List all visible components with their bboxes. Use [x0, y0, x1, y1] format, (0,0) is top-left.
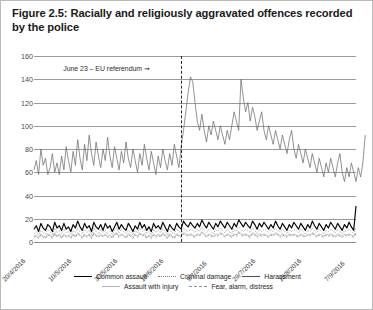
legend-label: Harassment — [264, 273, 301, 280]
legend-item-assault-with-injury[interactable]: Assault with injury — [102, 283, 178, 290]
chart-series-layer — [34, 56, 356, 242]
legend-swatch-icon — [74, 276, 92, 277]
y-tick-label-100: 100 — [0, 122, 33, 131]
y-tick-label-40: 40 — [0, 192, 33, 201]
legend-label: Common assault — [96, 273, 147, 280]
legend-row-1: Common assaultCriminal damageHarassment — [1, 273, 373, 280]
y-tick-label-80: 80 — [0, 145, 33, 154]
y-tick-label-160: 160 — [0, 52, 33, 61]
legend-swatch-icon — [189, 286, 207, 287]
legend-swatch-icon — [242, 276, 260, 277]
legend-swatch-icon — [158, 276, 176, 277]
legend-item-fear-alarm-distress[interactable]: Fear, alarm, distress — [189, 283, 273, 290]
y-tick-label-20: 20 — [0, 215, 33, 224]
legend-item-common-assault[interactable]: Common assault — [74, 273, 147, 280]
series-line-common-assault — [34, 206, 356, 232]
legend-label: Fear, alarm, distress — [211, 283, 273, 290]
y-tick-label-0: 0 — [0, 238, 33, 247]
referendum-marker-line — [181, 56, 182, 242]
legend-row-2: Assault with injuryFear, alarm, distress — [1, 283, 373, 290]
legend-item-criminal-damage[interactable]: Criminal damage — [158, 273, 231, 280]
figure-card: Figure 2.5: Racially and religiously agg… — [0, 0, 373, 310]
chart-plot-area — [34, 56, 356, 242]
legend-item-harassment[interactable]: Harassment — [242, 273, 301, 280]
series-line-assault-with-injury — [34, 232, 356, 238]
y-tick-label-60: 60 — [0, 168, 33, 177]
legend-label: Assault with injury — [124, 283, 178, 290]
legend-label: Criminal damage — [180, 273, 231, 280]
page-title: Figure 2.5: Racially and religiously agg… — [12, 7, 362, 34]
referendum-annotation: June 23 – EU referendum ➞ — [63, 65, 150, 73]
legend-swatch-icon — [102, 286, 120, 287]
y-tick-label-120: 120 — [0, 99, 33, 108]
x-axis-line — [34, 242, 356, 243]
y-tick-label-140: 140 — [0, 75, 33, 84]
chart-legend: Common assaultCriminal damageHarassment … — [1, 273, 373, 293]
series-line-harassment — [34, 77, 365, 182]
